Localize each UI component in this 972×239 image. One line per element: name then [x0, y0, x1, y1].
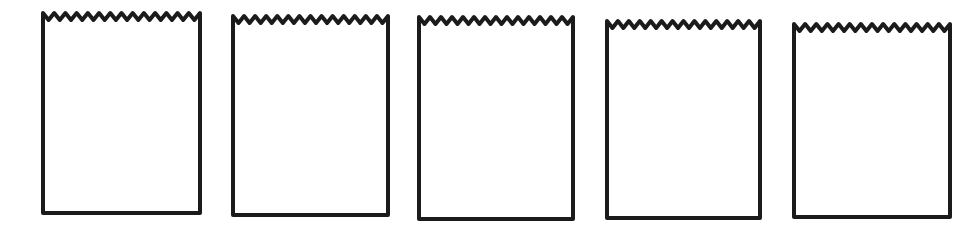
worksheet-canvas [0, 0, 972, 239]
bag-outline-path [607, 21, 760, 218]
paper-bag-shape [415, 13, 577, 223]
paper-bag-shape [229, 12, 392, 219]
paper-bag-shape [39, 9, 204, 217]
bag-outline-path [43, 13, 200, 213]
bag-outline-path [794, 24, 950, 217]
paper-bag-shape [790, 20, 954, 221]
paper-bag-shape [603, 17, 764, 222]
bag-outline-path [419, 17, 573, 219]
bag-outline-path [233, 16, 388, 215]
